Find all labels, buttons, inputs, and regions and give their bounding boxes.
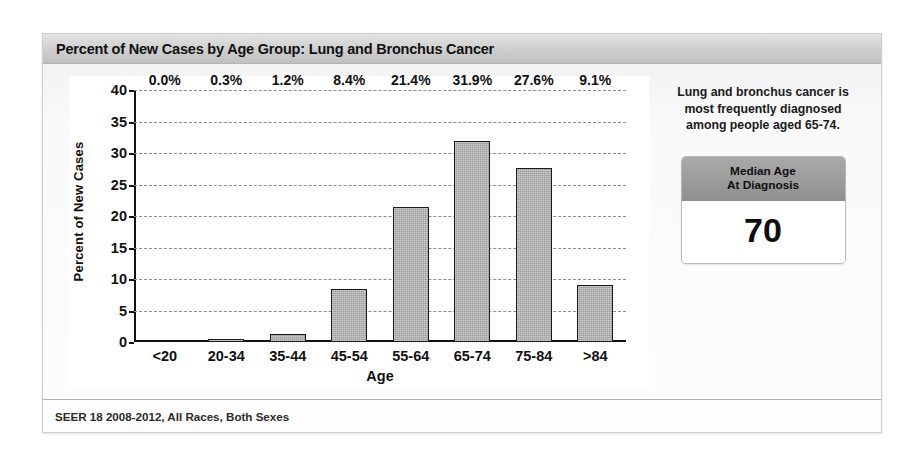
bar-group[interactable]: 31.9%65-74 <box>442 90 504 342</box>
y-axis-tick-label: 30 <box>111 146 127 161</box>
bar-series: 0.0%<200.3%20-341.2%35-448.4%45-5421.4%5… <box>134 90 626 342</box>
bar[interactable]: 21.4% <box>393 207 429 342</box>
y-axis-title: Percent of New Cases <box>67 76 91 346</box>
chart-widget: Percent of New Cases by Age Group: Lung … <box>42 33 882 433</box>
median-age-header-line1: Median Age <box>686 164 841 179</box>
x-axis-tick-label: >84 <box>583 349 608 364</box>
bar-group[interactable]: 27.6%75-84 <box>503 90 565 342</box>
x-axis-tick-label: <20 <box>152 349 177 364</box>
x-axis-tick-label: 45-54 <box>331 349 368 364</box>
x-axis-tick-label: 20-34 <box>208 349 245 364</box>
y-axis-tick-label: 5 <box>119 303 127 318</box>
bar-value-label: 9.1% <box>579 73 611 87</box>
bar-group[interactable]: 8.4%45-54 <box>319 90 381 342</box>
bar-group[interactable]: 0.0%<20 <box>134 90 196 342</box>
median-age-header-line2: At Diagnosis <box>686 178 841 193</box>
bar-value-label: 1.2% <box>272 73 304 87</box>
bar-chart: Percent of New Cases 0510152025303540 0.… <box>69 76 649 388</box>
median-age-value: 70 <box>682 201 845 263</box>
x-axis-tick-label: 35-44 <box>269 349 306 364</box>
median-age-box: Median Age At Diagnosis 70 <box>681 156 846 264</box>
widget-body: Percent of New Cases 0510152025303540 0.… <box>43 64 881 400</box>
side-caption: Lung and bronchus cancer is most frequen… <box>665 84 861 134</box>
bar-value-label: 21.4% <box>391 73 431 87</box>
bar-value-label: 31.9% <box>452 73 492 87</box>
bar-value-label: 27.6% <box>514 73 554 87</box>
widget-header: Percent of New Cases by Age Group: Lung … <box>43 34 881 64</box>
x-axis-title: Age <box>134 368 626 384</box>
bar-value-label: 0.0% <box>149 73 181 87</box>
y-axis-tick-label: 25 <box>111 177 127 192</box>
bar[interactable]: 0.3% <box>208 339 244 342</box>
bar-value-label: 8.4% <box>333 73 365 87</box>
bar-group[interactable]: 1.2%35-44 <box>257 90 319 342</box>
y-axis-tick-mark <box>129 342 134 344</box>
plot-area: 0510152025303540 0.0%<200.3%20-341.2%35-… <box>134 90 626 342</box>
bar-group[interactable]: 21.4%55-64 <box>380 90 442 342</box>
y-axis-tick-label: 0 <box>119 335 127 350</box>
bar[interactable]: 31.9% <box>454 141 490 342</box>
bar[interactable]: 8.4% <box>331 289 367 342</box>
bar-value-label: 0.3% <box>210 73 242 87</box>
bar[interactable]: 1.2% <box>270 334 306 342</box>
median-age-box-header: Median Age At Diagnosis <box>682 157 845 201</box>
y-axis-title-text: Percent of New Cases <box>72 141 87 281</box>
widget-footer: SEER 18 2008-2012, All Races, Both Sexes <box>43 399 881 432</box>
y-axis-tick-label: 35 <box>111 114 127 129</box>
y-axis-tick-label: 40 <box>111 83 127 98</box>
y-axis-tick-label: 10 <box>111 272 127 287</box>
x-axis-tick-label: 65-74 <box>454 349 491 364</box>
bar-group[interactable]: 0.3%20-34 <box>196 90 258 342</box>
y-axis-tick-label: 15 <box>111 240 127 255</box>
side-panel: Lung and bronchus cancer is most frequen… <box>665 84 861 264</box>
x-axis-tick-label: 75-84 <box>515 349 552 364</box>
page-title: Percent of New Cases by Age Group: Lung … <box>56 41 494 57</box>
bar-group[interactable]: 9.1%>84 <box>565 90 627 342</box>
y-axis-tick-label: 20 <box>111 209 127 224</box>
source-note: SEER 18 2008-2012, All Races, Both Sexes <box>55 410 289 423</box>
bar[interactable]: 9.1% <box>577 285 613 342</box>
bar[interactable]: 27.6% <box>516 168 552 342</box>
x-axis-tick-label: 55-64 <box>392 349 429 364</box>
